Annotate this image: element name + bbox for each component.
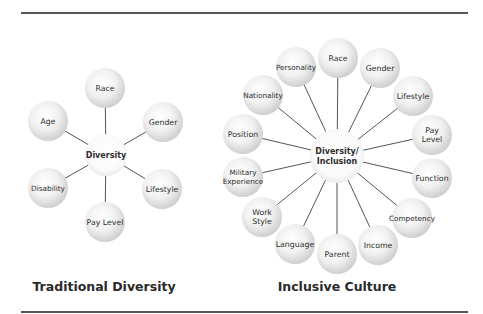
node-competency: Competency xyxy=(389,198,436,238)
node-label: Lifestyle xyxy=(146,185,179,194)
node-label: Race xyxy=(328,54,347,63)
connector-line xyxy=(262,138,312,150)
node-language: Language xyxy=(275,224,315,264)
connector-line xyxy=(123,132,146,146)
node-age: Age xyxy=(28,101,68,141)
node-nationality: Nationality xyxy=(243,75,283,115)
bottom-rule xyxy=(21,311,468,313)
node-label: Lifestyle xyxy=(397,92,430,101)
node-label: Position xyxy=(228,130,258,139)
node-label: Military xyxy=(229,168,257,177)
inclusive-culture-diagram: RaceGenderLifestylePayLevelFunctionCompe… xyxy=(223,38,452,274)
node-label: Income xyxy=(364,241,393,250)
center-label: Diversity/ xyxy=(315,147,359,156)
connector-line xyxy=(357,108,398,140)
node-label: Experience xyxy=(223,177,264,186)
node-income: Income xyxy=(358,225,398,265)
node-position: Position xyxy=(223,114,263,154)
connector-line xyxy=(262,162,312,173)
node-label: Competency xyxy=(389,214,436,223)
traditional-diversity-title: Traditional Diversity xyxy=(32,279,175,294)
center-label: Inclusion xyxy=(317,157,358,166)
inclusive-culture-title: Inclusive Culture xyxy=(278,279,397,294)
node-label: Language xyxy=(276,240,315,249)
connector-line xyxy=(123,165,146,179)
node-label: Pay xyxy=(425,126,439,135)
diagrams-canvas: RaceGenderLifestylePay LevelDisabilityAg… xyxy=(0,0,483,314)
node-race: Race xyxy=(85,68,125,108)
center-bubble xyxy=(310,129,364,183)
node-gender: Gender xyxy=(360,48,400,88)
node-lifestyle: Lifestyle xyxy=(142,169,182,209)
node-label: Gender xyxy=(149,118,179,127)
node-race: Race xyxy=(318,38,358,78)
connector-line xyxy=(64,131,88,145)
node-pay-level: PayLevel xyxy=(412,115,452,155)
connector-line xyxy=(303,180,326,227)
node-label: Age xyxy=(40,117,55,126)
center-node-diversity: Diversity xyxy=(85,134,127,176)
node-pay-level: Pay Level xyxy=(85,202,125,242)
node-label: Personality xyxy=(276,63,317,72)
node-label: Nationality xyxy=(243,91,283,100)
center-label: Diversity xyxy=(86,151,127,160)
node-lifestyle: Lifestyle xyxy=(393,76,433,116)
traditional-diversity-diagram: RaceGenderLifestylePay LevelDisabilityAg… xyxy=(28,68,183,242)
node-label: Function xyxy=(415,174,448,183)
node-gender: Gender xyxy=(143,102,183,142)
node-label: Race xyxy=(95,84,114,93)
node-label: Parent xyxy=(325,250,350,259)
node-parent: Parent xyxy=(317,234,357,274)
connector-line xyxy=(337,77,338,130)
connector-line xyxy=(362,162,413,174)
node-personality: Personality xyxy=(276,47,317,87)
node-label: Disability xyxy=(31,184,65,193)
connector-line xyxy=(348,180,370,228)
center-node-diversity-inclusion: Diversity/Inclusion xyxy=(310,129,364,183)
connector-line xyxy=(348,85,371,133)
node-label: Work xyxy=(252,208,272,217)
node-label: Style xyxy=(252,217,272,226)
connector-line xyxy=(65,165,89,179)
connector-line xyxy=(357,173,397,206)
node-work-style: WorkStyle xyxy=(242,197,282,237)
node-military-experience: MilitaryExperience xyxy=(223,157,264,197)
node-label: Pay Level xyxy=(87,218,124,227)
node-function: Function xyxy=(412,158,452,198)
connector-line xyxy=(278,107,317,139)
connector-line xyxy=(277,172,317,205)
connector-line xyxy=(362,139,413,150)
connector-line xyxy=(304,84,326,132)
node-label: Level xyxy=(422,135,443,144)
node-label: Gender xyxy=(366,64,396,73)
node-disability: Disability xyxy=(28,168,68,208)
